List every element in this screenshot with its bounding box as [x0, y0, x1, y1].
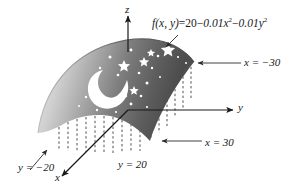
formula-label: f(x, y)=20−0.01x2−0.01y2 [152, 18, 267, 30]
surface-plot-figure: f(x, y)=20−0.01x2−0.01y2 x = −30 x = 30 … [0, 0, 300, 192]
x-axis-label: x [55, 172, 60, 183]
annotation-y-20: y = 20 [118, 159, 147, 170]
annotation-x-30: x = 30 [205, 137, 234, 148]
annotation-y-neg20: y = −20 [18, 162, 54, 173]
y-axis-label: y [238, 102, 243, 113]
annotation-x-neg30: x = −30 [244, 57, 280, 68]
z-axis-label: z [125, 4, 129, 15]
surface-dome [38, 39, 194, 141]
